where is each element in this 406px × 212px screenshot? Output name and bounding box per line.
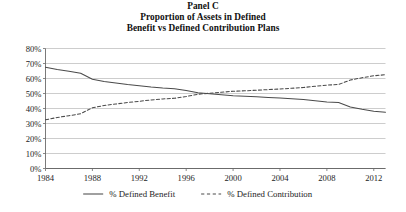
- chart-legend: % Defined Benefit% Defined Contribution: [83, 189, 313, 199]
- chart-figure: Panel C Proportion of Assets in Defined …: [0, 0, 406, 212]
- x-axis-tick-label: 2000: [224, 173, 241, 183]
- y-axis-tick-label: 20%: [26, 134, 42, 144]
- y-axis-tick-label: 50%: [26, 89, 42, 99]
- x-axis-tick-label: 2004: [271, 173, 289, 183]
- y-axis-tick-label: 60%: [26, 74, 42, 84]
- y-axis-tick-label: 10%: [26, 149, 42, 159]
- x-axis-tick-label: 1996: [178, 173, 196, 183]
- y-axis-tick-labels: 0%10%20%30%40%50%60%70%80%: [26, 44, 46, 174]
- chart-plot: 0%10%20%30%40%50%60%70%80% 1984198819921…: [0, 0, 406, 212]
- y-axis-tick-label: 70%: [26, 59, 42, 69]
- x-axis-tick-label: 1988: [84, 173, 101, 183]
- x-axis-tick-label: 1992: [131, 173, 148, 183]
- series-line-1: [46, 67, 386, 112]
- x-axis-tick-labels: 19841988199219962000200420082012: [37, 169, 382, 183]
- legend-label-2: % Defined Contribution: [227, 189, 313, 199]
- y-axis-tick-label: 40%: [26, 104, 42, 114]
- series-line-2: [46, 75, 386, 120]
- gridlines-group: [46, 49, 386, 169]
- legend-label-1: % Defined Benefit: [109, 189, 176, 199]
- x-axis-tick-label: 2012: [365, 173, 382, 183]
- y-axis-tick-label: 30%: [26, 119, 42, 129]
- y-axis-tick-label: 80%: [26, 44, 42, 54]
- x-axis-tick-label: 2008: [318, 173, 335, 183]
- x-axis-tick-label: 1984: [37, 173, 55, 183]
